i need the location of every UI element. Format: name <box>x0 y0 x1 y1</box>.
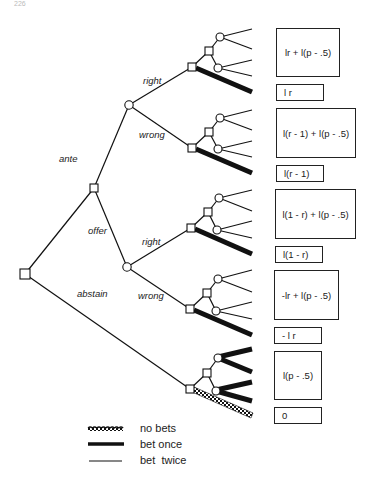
bet-once-line <box>196 68 252 92</box>
payoff-box: - l r <box>274 327 322 344</box>
decision-node <box>186 385 194 393</box>
payoff-box: lr + l(p - .5) <box>276 28 340 77</box>
main-edges <box>25 67 192 389</box>
chance-node-ante <box>125 101 133 109</box>
legend-label-bet-twice: bet twice <box>140 454 186 466</box>
subtree-ante-right <box>188 29 252 92</box>
chance-node <box>212 387 220 395</box>
label-ante-right: right <box>143 75 162 86</box>
decision-node <box>204 208 212 216</box>
label-ante: ante <box>59 153 78 164</box>
payoff-box: l(p - .5) <box>274 351 322 400</box>
edge-offer-wrong <box>127 267 190 309</box>
decision-node <box>186 305 194 313</box>
chance-node <box>213 226 221 234</box>
chance-node <box>216 33 224 41</box>
legend-label-bet-once: bet once <box>140 438 182 450</box>
chance-node <box>214 275 222 283</box>
subtree-offer-wrong <box>186 270 252 335</box>
decision-node <box>205 128 213 136</box>
decision-node <box>205 47 213 55</box>
decision-node <box>188 144 196 152</box>
edge-offer-right <box>127 228 191 267</box>
bet-once-line <box>195 229 252 254</box>
decision-node-ante <box>90 184 98 192</box>
chance-node <box>214 354 222 362</box>
edge-ante-wrong <box>129 105 192 148</box>
edge-ante-chance <box>94 105 129 188</box>
label-offer-right: right <box>142 236 161 247</box>
label-ante-wrong: wrong <box>139 129 166 140</box>
legend-label-no-bets: no bets <box>140 422 176 434</box>
payoff-box: 0 <box>274 407 322 424</box>
label-offer: offer <box>88 225 108 236</box>
decision-node <box>203 369 211 377</box>
chance-node <box>212 307 220 315</box>
payoff-box: l(r - 1) <box>276 165 324 182</box>
chance-node <box>214 145 222 153</box>
decision-node <box>187 224 195 232</box>
subtree-ante-wrong <box>188 110 252 173</box>
root-decision-node <box>20 269 30 279</box>
payoff-box: l(1 - r) + l(p - .5) <box>275 189 356 239</box>
legend-lines <box>88 427 124 461</box>
chance-node <box>215 194 223 202</box>
decision-node <box>188 63 196 71</box>
subtree-abstain <box>186 349 253 418</box>
payoff-box: l(1 - r) <box>275 246 323 263</box>
edge-ante <box>25 188 94 274</box>
label-offer-wrong: wrong <box>138 290 165 301</box>
decision-node <box>203 289 211 297</box>
chance-node <box>214 64 222 72</box>
payoff-box: l(r - 1) + l(p - .5) <box>276 108 356 158</box>
edge-ante-right <box>129 67 192 105</box>
payoff-box: l r <box>276 84 324 101</box>
bet-once-line <box>196 149 252 173</box>
label-abstain: abstain <box>77 288 108 299</box>
subtree-offer-right <box>187 190 252 254</box>
payoff-box: -lr + l(p - .5) <box>274 270 339 320</box>
bet-once-line <box>194 310 252 335</box>
chance-node <box>216 114 224 122</box>
chance-node-offer <box>123 263 131 271</box>
